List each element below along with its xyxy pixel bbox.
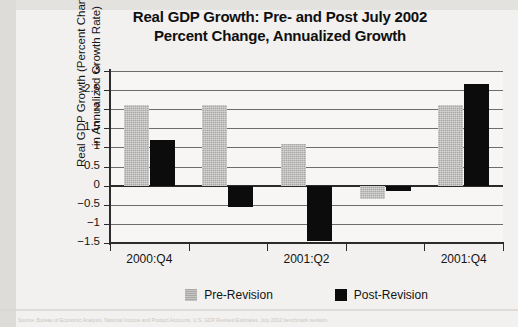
gridline [110, 71, 503, 72]
legend-swatch-pre [185, 289, 197, 301]
y-axis-tick-label: −0.5 [54, 197, 100, 209]
legend-item: Post-Revision [335, 288, 428, 302]
y-axis-tick-label: 3 [54, 63, 100, 75]
y-axis-tick-label: 1.5 [54, 120, 100, 132]
bar [438, 105, 463, 185]
y-axis-tick-label: 1 [54, 139, 100, 151]
bar [307, 186, 332, 241]
x-axis-tick-label: 2001:Q4 [419, 252, 509, 266]
bar [202, 105, 227, 185]
y-axis-tick [104, 109, 111, 110]
y-axis-tick-label: 0.5 [54, 159, 100, 171]
x-axis-tick-label: 2000:Q4 [104, 252, 194, 266]
y-axis-tick [104, 147, 111, 148]
y-axis-tick [104, 167, 111, 168]
chart-legend: Pre-RevisionPost-Revision [110, 288, 503, 302]
y-axis-line [109, 69, 111, 245]
plot-background [110, 71, 503, 243]
y-axis-tick [104, 71, 111, 72]
x-axis-tick [267, 244, 268, 251]
x-axis-tick [424, 244, 425, 251]
x-axis-tick [503, 244, 504, 251]
bar [281, 144, 306, 186]
x-axis-tick-label: 2001:Q2 [262, 252, 352, 266]
y-axis-tick-label: 2 [54, 101, 100, 113]
gridline [110, 90, 503, 91]
bar [124, 105, 149, 185]
chart-plot-area: 32.521.510.50−0.5−1−1.5 2000:Q42001:Q220… [0, 0, 518, 327]
x-axis-tick [110, 244, 111, 251]
page-scan-divider [0, 309, 518, 311]
bar [386, 186, 411, 192]
legend-item: Pre-Revision [185, 288, 273, 302]
bar [464, 84, 489, 185]
legend-swatch-post [335, 289, 347, 301]
y-axis-tick-label: −1 [54, 216, 100, 228]
y-axis-tick [104, 90, 111, 91]
source-note: Source: Bureau of Economic Analysis, Nat… [18, 316, 504, 325]
y-axis-tick [104, 205, 111, 206]
x-axis-tick [189, 244, 190, 251]
x-axis-line [110, 242, 504, 244]
y-axis-tick-label: 2.5 [54, 82, 100, 94]
y-axis-tick [104, 224, 111, 225]
y-axis-tick [104, 186, 111, 187]
legend-label: Post-Revision [354, 288, 428, 302]
x-axis-tick [346, 244, 347, 251]
bar [360, 186, 385, 199]
legend-label: Pre-Revision [204, 288, 273, 302]
y-axis-tick [104, 128, 111, 129]
y-axis-tick-label: 0 [54, 178, 100, 190]
bar [228, 186, 253, 207]
bar [150, 140, 175, 186]
y-axis-tick-label: −1.5 [54, 235, 100, 247]
